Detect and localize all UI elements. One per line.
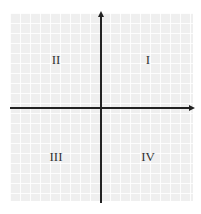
y-axis [100, 16, 102, 203]
y-axis-arrow-icon [98, 11, 104, 17]
quadrant-label-ii: II [52, 53, 61, 66]
coordinate-plane: I II III IV [0, 0, 201, 214]
quadrant-label-iv: IV [141, 150, 155, 163]
x-axis-arrow-icon [189, 105, 195, 111]
quadrant-label-iii: III [50, 150, 63, 163]
quadrant-label-i: I [146, 53, 150, 66]
